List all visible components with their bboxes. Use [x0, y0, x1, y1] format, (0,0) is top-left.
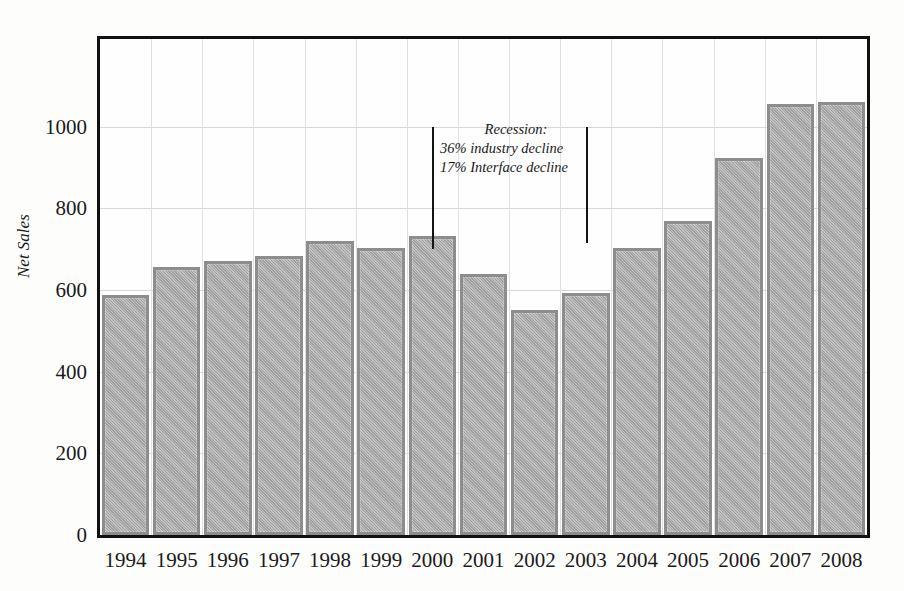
x-tick-2008: 2008 [820, 548, 862, 573]
gridline-x-2003 [560, 39, 561, 535]
gridline-x-2004 [611, 39, 612, 535]
bar-2005 [664, 221, 712, 535]
bar-1999 [357, 248, 405, 535]
annotation-line-2: 36% industry decline [440, 139, 592, 158]
recession-annotation: Recession: 36% industry decline 17% Inte… [440, 120, 592, 177]
x-tick-2000: 2000 [411, 548, 453, 573]
gridline-x-1996 [202, 39, 203, 535]
x-tick-1994: 1994 [105, 548, 147, 573]
x-tick-1997: 1997 [258, 548, 300, 573]
net-sales-bar-chart: Net Sales 02004006008001000 199419951996… [0, 0, 904, 591]
y-tick-600: 600 [0, 278, 87, 303]
x-tick-2006: 2006 [718, 548, 760, 573]
x-tick-2004: 2004 [616, 548, 658, 573]
x-tick-1995: 1995 [156, 548, 198, 573]
bar-1995 [153, 267, 201, 535]
x-tick-2001: 2001 [463, 548, 505, 573]
bar-2004 [613, 248, 661, 535]
x-tick-2003: 2003 [565, 548, 607, 573]
y-tick-0: 0 [0, 523, 87, 548]
bar-1996 [204, 261, 252, 535]
bar-2003 [562, 293, 610, 535]
bar-2006 [715, 158, 763, 535]
bar-1997 [255, 256, 303, 535]
plot-inner [100, 39, 867, 535]
x-tick-2007: 2007 [769, 548, 811, 573]
y-tick-800: 800 [0, 196, 87, 221]
bar-1998 [306, 241, 354, 535]
gridline-x-1995 [151, 39, 152, 535]
bar-2002 [511, 310, 559, 535]
gridline-x-2002 [509, 39, 510, 535]
bar-2008 [818, 102, 866, 535]
x-tick-1998: 1998 [309, 548, 351, 573]
y-tick-200: 200 [0, 441, 87, 466]
bar-2001 [460, 274, 508, 535]
x-tick-1996: 1996 [207, 548, 249, 573]
gridline-x-1997 [253, 39, 254, 535]
gridline-x-2005 [662, 39, 663, 535]
annotation-line-1: Recession: [440, 120, 592, 139]
bar-1994 [102, 295, 150, 535]
x-tick-1999: 1999 [360, 548, 402, 573]
x-tick-2002: 2002 [514, 548, 556, 573]
y-tick-400: 400 [0, 359, 87, 384]
x-tick-2005: 2005 [667, 548, 709, 573]
annotation-line-3: 17% Interface decline [440, 158, 592, 177]
y-tick-1000: 1000 [0, 114, 87, 139]
recession-start-marker [432, 127, 434, 249]
bar-2007 [767, 104, 815, 535]
plot-area [97, 36, 870, 538]
bar-2000 [409, 236, 457, 535]
